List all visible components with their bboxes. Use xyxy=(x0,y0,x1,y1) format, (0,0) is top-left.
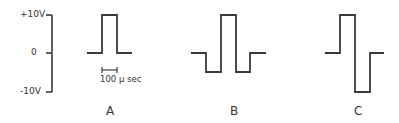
voltage-axis xyxy=(46,15,52,92)
waveform-a xyxy=(87,15,132,53)
waveform-b xyxy=(191,15,266,72)
panel-label-c: C xyxy=(354,104,362,118)
tick-label-plus10: +10V xyxy=(20,9,45,19)
tick-label-zero: 0 xyxy=(31,47,37,57)
panel-label-a: A xyxy=(106,104,114,118)
waveform-c xyxy=(325,15,384,92)
scale-bar-label: 100 μ sec xyxy=(100,74,141,84)
waveform-diagram xyxy=(0,0,399,123)
panel-label-b: B xyxy=(230,104,238,118)
scale-bar xyxy=(102,67,117,73)
tick-label-minus10: -10V xyxy=(20,86,41,96)
